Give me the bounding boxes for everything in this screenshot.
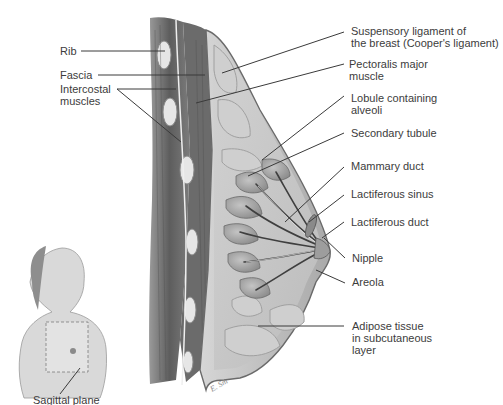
label-lactiferous-duct: Lactiferous duct [351, 216, 429, 228]
label-suspensory-ligament: Suspensory ligament of the breast (Coope… [351, 25, 499, 49]
label-pectoralis-major: Pectoralis major muscle [349, 58, 428, 82]
label-areola: Areola [352, 276, 384, 288]
inset-torso [19, 246, 106, 398]
label-secondary-tubule: Secondary tubule [351, 127, 437, 139]
label-lactiferous-sinus: Lactiferous sinus [351, 188, 434, 200]
rib-6 [183, 351, 193, 373]
label-rib: Rib [60, 45, 77, 57]
rib-1 [157, 41, 171, 69]
rib-2 [163, 98, 177, 126]
label-sagittal-plane: Sagittal plane [33, 396, 100, 405]
rib-4 [186, 229, 198, 255]
label-adipose-tissue: Adipose tissue in subcutaneous layer [352, 320, 432, 356]
breast-anatomy-figure: E. Sm Rib Fascia [0, 0, 503, 405]
label-mammary-duct: Mammary duct [351, 160, 424, 172]
label-fascia: Fascia [60, 69, 92, 81]
label-nipple: Nipple [352, 252, 383, 264]
sagittal-plane-marker [46, 322, 88, 372]
label-lobule: Lobule containing alveoli [351, 92, 437, 116]
label-intercostal-muscles: Intercostal muscles [60, 83, 111, 107]
